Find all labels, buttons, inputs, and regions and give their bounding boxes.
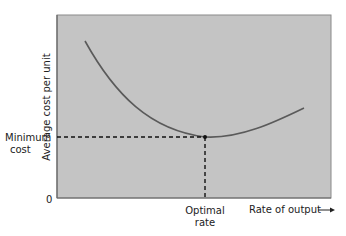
y-axis-label: Average cost per unit (41, 53, 52, 160)
minimum-cost-label-1: Minimum (5, 132, 51, 143)
x-axis-label: Rate of output (249, 204, 321, 215)
plot-area (57, 15, 331, 198)
zero-label: 0 (46, 194, 52, 205)
optimal-rate-label-1: Optimal (185, 205, 225, 216)
minimum-cost-label-2: cost (10, 144, 31, 155)
chart: Average cost per unit Minimum cost 0 Opt… (0, 0, 346, 236)
optimal-rate-label-2: rate (195, 217, 215, 228)
minimum-point (203, 135, 207, 139)
